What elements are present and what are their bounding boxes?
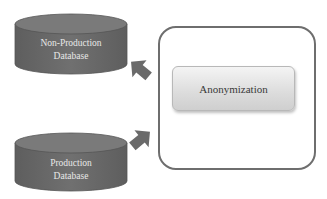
diagram-canvas: Non-Production Database Production Datab… [0,0,327,199]
production-label-line1: Production [15,157,127,170]
non-production-database-label: Non-Production Database [15,37,127,63]
production-database-label: Production Database [15,157,127,183]
arrow-to-anonymization-icon [125,123,157,155]
anonymization-label: Anonymization [199,83,267,95]
non-production-label-line2: Database [15,50,127,63]
anonymization-process-box: Anonymization [172,66,295,111]
non-production-label-line1: Non-Production [15,37,127,50]
production-label-line2: Database [15,170,127,183]
arrow-to-non-production-icon [124,53,156,85]
